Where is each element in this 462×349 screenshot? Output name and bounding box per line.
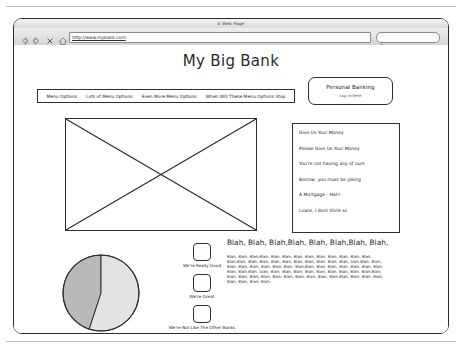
promo-item[interactable]: Loans, I dont think so	[299, 208, 393, 213]
pie-chart	[60, 252, 142, 333]
article-heading: Blah, Blah, Blah,Blah, Blah, Blah,Blah, …	[227, 238, 403, 248]
promo-item[interactable]: You're not having any of ours	[299, 161, 393, 166]
search-magnifier-icon	[379, 34, 385, 40]
stop-x-icon[interactable]	[45, 31, 55, 42]
home-icon[interactable]	[58, 31, 68, 42]
nav-item-even-more-menu-options[interactable]: Even More Menu Options	[142, 94, 197, 99]
window-title: A Web Page	[14, 19, 448, 28]
promo-item[interactable]: Please Give Us Your Money	[299, 146, 393, 151]
page-bottom-rule	[6, 341, 456, 342]
search-input[interactable]	[376, 32, 440, 43]
nav-item-lots-of-menu-options[interactable]: Lots of Menu Options	[86, 94, 132, 99]
page-title: My Big Bank	[14, 52, 448, 70]
forward-arrow-icon[interactable]	[32, 31, 42, 42]
address-bar[interactable]: http://www.mybank.com	[69, 32, 371, 43]
url-text: http://www.mybank.com	[72, 33, 126, 42]
checkbox-were-great[interactable]	[193, 274, 211, 292]
hero-image-placeholder	[65, 118, 257, 231]
nav-item-when-will-these-menu-options-stop[interactable]: When Will These Menu Options Stop	[206, 94, 286, 99]
personal-banking-login-button[interactable]: Personal Banking Log in here	[308, 77, 393, 105]
promo-item[interactable]: Borrow, you must be joking	[299, 177, 393, 182]
promo-item[interactable]: Give Us Your Money	[299, 130, 393, 135]
checkbox-were-really-good[interactable]	[193, 243, 211, 261]
browser-toolbar: http://www.mybank.com	[14, 28, 448, 46]
login-subtitle: Log in here	[309, 93, 392, 98]
promo-item[interactable]: A Mortgage - Hah!	[299, 192, 393, 197]
placeholder-cross-icon	[66, 119, 256, 230]
page-top-rule	[6, 6, 456, 7]
checkbox-label: We're Not Like The Other Banks	[147, 325, 257, 330]
promo-list-box: Give Us Your Money Please Give Us Your M…	[292, 123, 400, 233]
article-body: Blah, Blah, Blah,Blah, Blah, Blah, Blah,…	[227, 255, 387, 284]
nav-item-menu-options[interactable]: Menu Options	[47, 94, 77, 99]
login-title: Personal Banking	[309, 84, 392, 90]
checkbox-were-not-like-the-other-banks[interactable]	[193, 305, 211, 323]
checkbox-label: We're Great	[147, 294, 257, 299]
browser-window: A Web Page http://www.mybank.com	[13, 18, 449, 334]
checkbox-row: We're Not Like The Other Banks	[147, 305, 257, 330]
page-canvas: My Big Bank Personal Banking Log in here…	[14, 45, 448, 333]
navigation-buttons	[19, 31, 68, 42]
main-navigation: Menu Options Lots of Menu Options Even M…	[37, 89, 295, 103]
back-arrow-icon[interactable]	[19, 31, 29, 42]
